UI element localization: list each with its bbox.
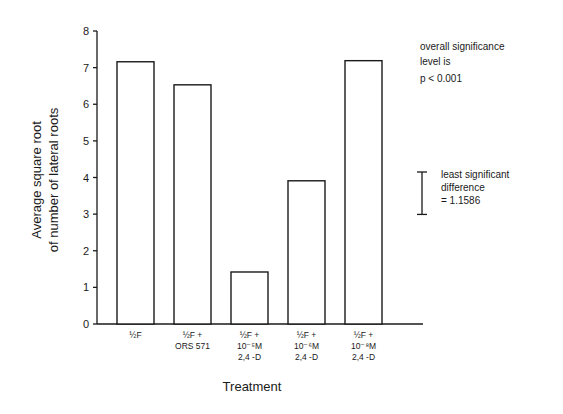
lsd-text: least significant [441,169,510,180]
bar-chart: 012345678 ½F½F +ORS 571½F +10⁻⁵M2,4 -D½F… [0,0,563,414]
bar [117,62,154,324]
y-tick-label: 3 [83,208,89,220]
significance-text: overall significance [420,41,505,52]
y-axis-label-line: Average square root [29,121,44,239]
x-category-label: ½F [129,330,141,340]
y-tick-label: 4 [83,172,89,184]
significance-text: level is [420,56,451,67]
x-category-label: ½F + [240,330,260,340]
x-category-labels: ½F½F +ORS 571½F +10⁻⁵M2,4 -D½F +10⁻⁶M2,4… [129,330,376,362]
x-category-label: ½F + [354,330,374,340]
x-category-label: 10⁻⁶M [294,341,319,351]
x-category-label: ½F + [183,330,203,340]
x-category-label: 10⁻⁸M [351,341,376,351]
y-tick-label: 5 [83,135,89,147]
x-category-label: 2,4 -D [352,352,375,362]
y-tick-label: 0 [83,318,89,330]
x-category-label: 10⁻⁵M [237,341,262,351]
y-tick-label: 7 [83,62,89,74]
y-tick-label: 6 [83,98,89,110]
bar [231,272,268,324]
x-category-label: 2,4 -D [295,352,318,362]
significance-text: p < 0.001 [420,73,462,84]
lsd-annotation: least significantdifference= 1.1586 [417,169,510,214]
bar [288,181,325,324]
y-tick-label: 1 [83,281,89,293]
x-category-label: ORS 571 [175,341,210,351]
lsd-text: = 1.1586 [441,195,481,206]
x-axis-label: Treatment [223,379,282,394]
significance-note: overall significancelevel isp < 0.001 [420,41,505,84]
x-category-label: 2,4 -D [238,352,261,362]
x-category-label: ½F + [297,330,317,340]
y-axis-label: Average square rootof number of lateral … [29,107,61,252]
bar [174,85,211,324]
y-axis-label-line: of number of lateral roots [46,107,61,252]
bars [117,61,382,324]
y-tick-label: 2 [83,245,89,257]
y-tick-label: 8 [83,25,89,37]
lsd-text: difference [441,182,485,193]
bar [345,61,382,324]
